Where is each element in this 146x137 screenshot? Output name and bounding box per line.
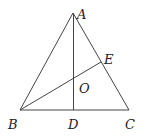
label-d: D <box>67 117 79 132</box>
label-a: A <box>76 7 86 22</box>
label-c: C <box>125 117 135 132</box>
label-b: B <box>7 117 18 132</box>
label-e: E <box>103 52 114 67</box>
segment-ab <box>20 13 73 110</box>
label-o: O <box>79 81 90 96</box>
triangle-diagram: A E O B D C <box>0 0 146 137</box>
